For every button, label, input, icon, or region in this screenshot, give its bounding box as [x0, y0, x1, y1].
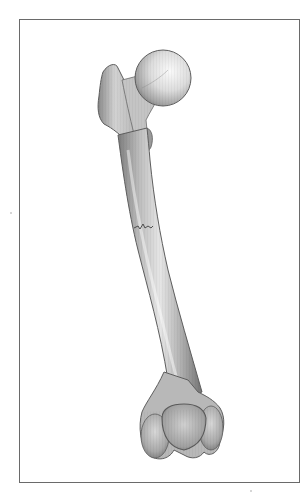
femur-illustration — [0, 0, 304, 497]
shaft — [118, 128, 202, 398]
paper-speck — [10, 212, 12, 214]
distal-femur — [140, 372, 224, 459]
paper-speck — [250, 490, 252, 492]
femoral-head — [135, 50, 191, 106]
